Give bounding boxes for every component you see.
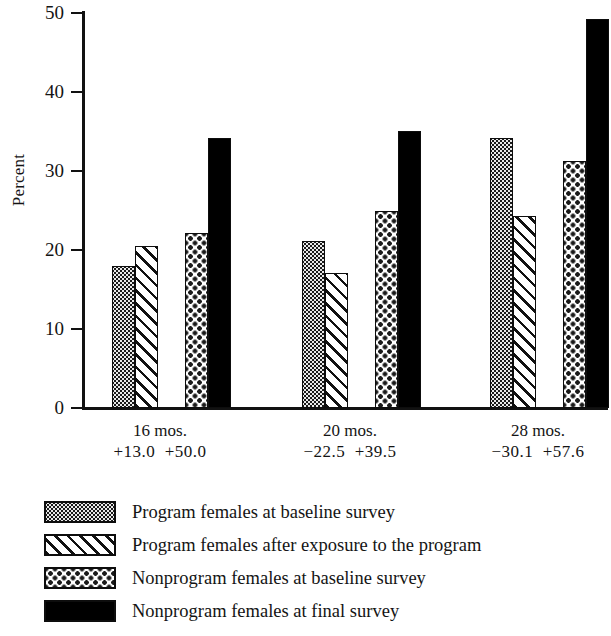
bar-chart: Percent 50403020100 16 mos.+13.0 +50.020… (0, 0, 611, 480)
y-tick-label-40: 40 (18, 82, 64, 101)
legend-label: Program females after exposure to the pr… (132, 534, 481, 556)
legend-swatch-solid-black-icon (44, 600, 116, 622)
bar-28-mos--series-3 (563, 161, 586, 408)
legend-label: Program females at baseline survey (132, 501, 395, 523)
bar-20-mos--series-1 (302, 241, 325, 408)
legend-label: Nonprogram females at final survey (132, 600, 399, 622)
y-tick-10 (71, 328, 82, 330)
bar-16-mos--series-1 (112, 266, 135, 408)
x-group-period: 20 mos. (270, 420, 430, 441)
legend-item-1[interactable]: Program females at baseline survey (44, 495, 604, 528)
bar-16-mos--series-4 (208, 138, 231, 408)
legend-item-3[interactable]: Nonprogram females at baseline survey (44, 561, 604, 594)
legend-swatch-dense-dot-icon (44, 501, 116, 523)
legend-item-4[interactable]: Nonprogram females at final survey (44, 594, 604, 627)
bar-20-mos--series-3 (375, 211, 398, 409)
y-tick-40 (71, 91, 82, 93)
y-tick-20 (71, 249, 82, 251)
bar-20-mos--series-4 (398, 131, 421, 408)
legend-label: Nonprogram females at baseline survey (132, 567, 426, 589)
y-tick-label-10: 10 (18, 319, 64, 338)
legend-item-2[interactable]: Program females after exposure to the pr… (44, 528, 604, 561)
x-group-change: −30.1 +57.6 (458, 441, 611, 462)
x-group-label-3: 28 mos.−30.1 +57.6 (458, 420, 611, 462)
bar-28-mos--series-1 (490, 138, 513, 408)
x-group-period: 16 mos. (80, 420, 240, 441)
y-tick-label-30: 30 (18, 161, 64, 180)
bar-28-mos--series-4 (586, 19, 609, 408)
bar-28-mos--series-2 (513, 216, 536, 408)
bar-20-mos--series-2 (325, 273, 348, 408)
chart-legend: Program females at baseline surveyProgra… (44, 495, 604, 627)
x-group-label-2: 20 mos.−22.5 +39.5 (270, 420, 430, 462)
y-tick-label-20: 20 (18, 240, 64, 259)
x-group-label-1: 16 mos.+13.0 +50.0 (80, 420, 240, 462)
y-axis-label: Percent (9, 135, 29, 225)
bar-16-mos--series-3 (185, 233, 208, 408)
plot-area (82, 13, 608, 408)
y-tick-0 (71, 407, 82, 409)
y-tick-label-0: 0 (18, 398, 64, 417)
legend-swatch-diagonal-hatch-icon (44, 534, 116, 556)
y-tick-50 (71, 12, 82, 14)
bar-16-mos--series-2 (135, 246, 158, 408)
x-group-period: 28 mos. (458, 420, 611, 441)
x-group-change: +13.0 +50.0 (80, 441, 240, 462)
legend-swatch-sparse-dot-icon (44, 567, 116, 589)
x-group-change: −22.5 +39.5 (270, 441, 430, 462)
y-tick-label-50: 50 (18, 3, 64, 22)
y-tick-30 (71, 170, 82, 172)
